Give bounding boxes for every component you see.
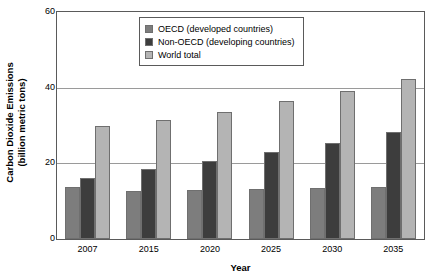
y-tick-label-0: 0 bbox=[21, 234, 55, 243]
bar-group-2035 bbox=[371, 12, 416, 239]
legend-item-nonoecd: Non-OECD (developing countries) bbox=[145, 35, 295, 48]
x-tick-label-2025: 2025 bbox=[241, 244, 301, 254]
bar-nonoecd-2007 bbox=[80, 178, 95, 239]
bar-world-2035 bbox=[401, 79, 416, 239]
bar-group-2007 bbox=[65, 12, 110, 239]
x-tick-label-2015: 2015 bbox=[119, 244, 179, 254]
legend-label-world: World total bbox=[158, 50, 201, 60]
bar-world-2020 bbox=[217, 112, 232, 239]
y-axis-title-line-2: (billion metric tons) bbox=[15, 78, 26, 166]
bar-nonoecd-2020 bbox=[202, 161, 217, 239]
bar-world-2030 bbox=[340, 91, 355, 239]
legend-item-oecd: OECD (developed countries) bbox=[145, 22, 295, 35]
bar-oecd-2025 bbox=[249, 189, 264, 239]
y-tick-label-60: 60 bbox=[21, 7, 55, 16]
bar-nonoecd-2030 bbox=[325, 143, 340, 239]
x-tick-label-2030: 2030 bbox=[302, 244, 362, 254]
legend-label-oecd: OECD (developed countries) bbox=[158, 24, 273, 34]
legend-label-nonoecd: Non-OECD (developing countries) bbox=[158, 37, 295, 47]
legend-item-world: World total bbox=[145, 48, 295, 61]
bar-oecd-2030 bbox=[310, 188, 325, 239]
legend-swatch-oecd-icon bbox=[145, 25, 153, 33]
y-axis-title-line-1: Carbon Dioxide Emissions bbox=[4, 62, 15, 182]
x-tick-label-2020: 2020 bbox=[180, 244, 240, 254]
chart-legend: OECD (developed countries)Non-OECD (deve… bbox=[139, 17, 304, 66]
x-tick-label-2035: 2035 bbox=[363, 244, 423, 254]
legend-swatch-nonoecd-icon bbox=[145, 38, 153, 46]
bar-oecd-2035 bbox=[371, 187, 386, 239]
bar-world-2025 bbox=[279, 101, 294, 239]
y-axis-title: Carbon Dioxide Emissions (billion metric… bbox=[0, 0, 30, 245]
bar-oecd-2007 bbox=[65, 187, 80, 239]
bar-nonoecd-2025 bbox=[264, 152, 279, 239]
bar-world-2007 bbox=[95, 126, 110, 239]
bar-world-2015 bbox=[156, 120, 171, 239]
x-axis-title: Year bbox=[57, 262, 424, 273]
bar-group-2030 bbox=[310, 12, 355, 239]
bar-oecd-2015 bbox=[126, 191, 141, 239]
bar-nonoecd-2035 bbox=[386, 132, 401, 239]
legend-swatch-world-icon bbox=[145, 51, 153, 59]
y-tick-label-20: 20 bbox=[21, 158, 55, 167]
x-tick-label-2007: 2007 bbox=[58, 244, 118, 254]
co2-emissions-bar-chart: Carbon Dioxide Emissions (billion metric… bbox=[0, 0, 434, 280]
bar-oecd-2020 bbox=[187, 190, 202, 239]
bar-nonoecd-2015 bbox=[141, 169, 156, 239]
y-tick-label-40: 40 bbox=[21, 83, 55, 92]
x-axis-tick-labels: 200720152020202520302035 bbox=[57, 244, 424, 254]
